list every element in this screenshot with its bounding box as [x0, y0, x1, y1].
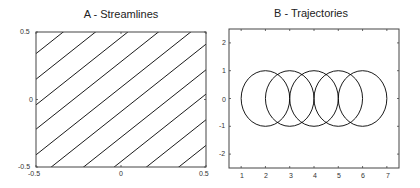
b-ytick-neg2: -2 [219, 150, 225, 157]
b-ytick-1: 1 [222, 67, 226, 74]
b-ytick-neg1: -1 [219, 122, 225, 129]
b-xtick-6: 6 [361, 172, 365, 179]
b-xtick-3: 3 [289, 172, 293, 179]
b-ytick-0: 0 [222, 96, 226, 103]
b-xtick-4: 4 [313, 172, 317, 179]
b-xtick-5: 5 [337, 172, 341, 179]
b-xtick-2: 2 [264, 172, 268, 179]
b-xtick-1: 1 [240, 172, 244, 179]
trajectories-plot [0, 0, 420, 188]
b-ytick-2: 2 [222, 39, 226, 46]
b-xtick-7: 7 [386, 172, 390, 179]
